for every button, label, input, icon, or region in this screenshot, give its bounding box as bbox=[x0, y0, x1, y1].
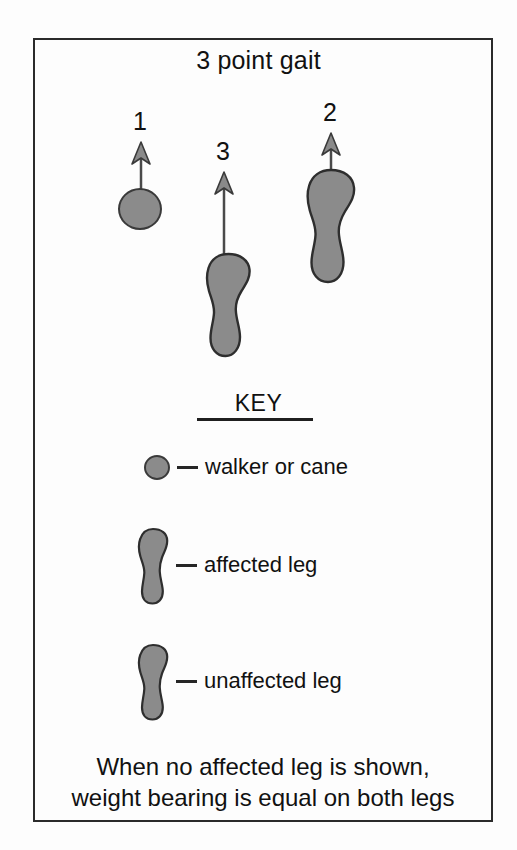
key-footprint-mark-icon-affected bbox=[137, 527, 169, 605]
figure-page: 3 point gait 1 3 2 KEY walker or cane bbox=[0, 0, 517, 850]
key-circle-mark-icon bbox=[144, 455, 170, 480]
step-number-1: 1 bbox=[120, 107, 160, 136]
step-2-footprint-icon bbox=[303, 168, 357, 284]
figure-caption: When no affected leg is shown, weight be… bbox=[33, 751, 493, 813]
key-heading: KEY bbox=[0, 390, 517, 417]
key-label-walker-or-cane: walker or cane bbox=[205, 454, 348, 480]
key-dash-1 bbox=[177, 466, 198, 469]
step-3-footprint-icon bbox=[203, 252, 253, 358]
key-underline bbox=[197, 418, 313, 421]
key-label-unaffected-leg: unaffected leg bbox=[204, 668, 342, 694]
caption-line-2: weight bearing is equal on both legs bbox=[33, 782, 493, 813]
figure-title: 3 point gait bbox=[0, 46, 517, 75]
step-number-2: 2 bbox=[310, 98, 350, 127]
caption-line-1: When no affected leg is shown, bbox=[33, 751, 493, 782]
step-3-arrow-icon bbox=[211, 170, 237, 260]
key-dash-2 bbox=[176, 564, 197, 567]
key-footprint-mark-icon-unaffected bbox=[137, 643, 169, 721]
key-label-affected-leg: affected leg bbox=[204, 552, 317, 578]
step-number-3: 3 bbox=[203, 137, 243, 166]
key-dash-3 bbox=[176, 680, 197, 683]
step-1-walker-mark bbox=[118, 188, 162, 230]
figure-border bbox=[33, 38, 493, 822]
